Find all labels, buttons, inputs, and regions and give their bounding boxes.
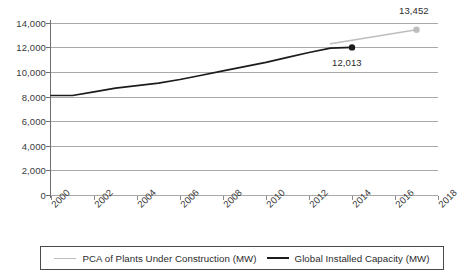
legend-line-swatch-icon <box>267 257 289 259</box>
series-line-pca-plants-under-construction <box>331 30 417 44</box>
legend-entry-global-installed-capacity: Global Installed Capacity (MW) <box>267 253 430 264</box>
data-label-pca-endpoint: 13,452 <box>399 5 429 16</box>
series-end-marker-pca-plants-under-construction <box>413 27 419 33</box>
legend-entry-pca: PCA of Plants Under Construction (MW) <box>54 253 256 264</box>
legend-label: Global Installed Capacity (MW) <box>295 253 430 264</box>
data-label-capacity-endpoint: 12,013 <box>332 57 362 68</box>
legend-label: PCA of Plants Under Construction (MW) <box>82 253 256 264</box>
legend-line-swatch-icon <box>54 258 76 259</box>
series-line-global-installed-capacity <box>51 47 352 95</box>
chart-legend: PCA of Plants Under Construction (MW) Gl… <box>40 246 444 270</box>
series-end-marker-global-installed-capacity <box>349 44 355 50</box>
